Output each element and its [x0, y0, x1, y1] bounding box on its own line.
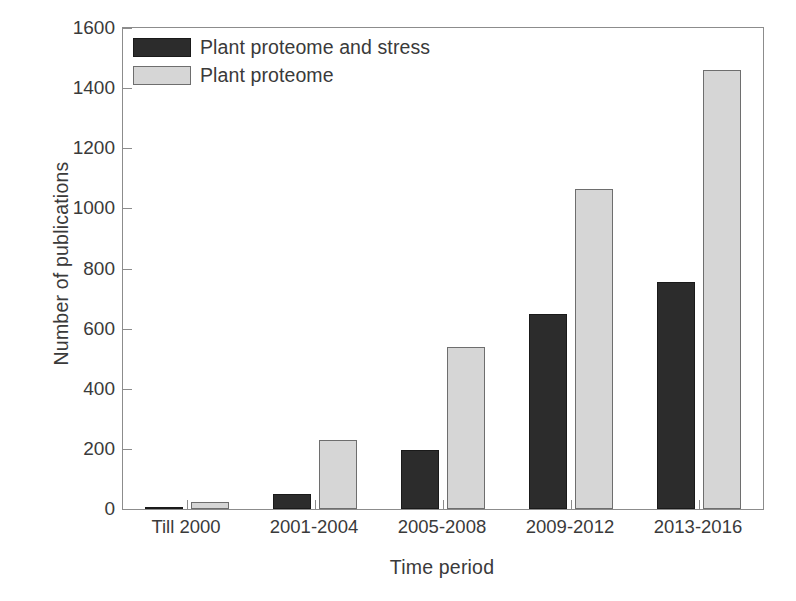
- bar-chart-figure: Number of publications Time period 02004…: [0, 0, 796, 601]
- legend-item-0: Plant proteome and stress: [133, 36, 430, 59]
- y-tick-1400: 1400: [123, 88, 132, 89]
- y-tick-label-1400: 1400: [73, 77, 115, 99]
- x-category-label-2: 2005-2008: [398, 516, 486, 538]
- y-tick-400: 400: [123, 389, 132, 390]
- bar-2-0: [401, 450, 439, 509]
- bar-2-1: [447, 347, 485, 509]
- x-tick-1: [315, 500, 316, 509]
- y-tick-label-1600: 1600: [73, 17, 115, 39]
- y-tick-600: 600: [123, 329, 132, 330]
- y-tick-label-200: 200: [83, 438, 115, 460]
- x-tick-2: [443, 500, 444, 509]
- legend-item-1: Plant proteome: [133, 64, 430, 87]
- legend-swatch-icon-0: [133, 38, 191, 57]
- y-tick-label-800: 800: [83, 258, 115, 280]
- bar-1-0: [273, 494, 311, 509]
- bar-4-0: [657, 282, 695, 509]
- chart-legend: Plant proteome and stress Plant proteome: [133, 36, 430, 87]
- x-tick-4: [699, 500, 700, 509]
- y-tick-800: 800: [123, 269, 132, 270]
- y-tick-1200: 1200: [123, 148, 132, 149]
- x-category-label-3: 2009-2012: [526, 516, 614, 538]
- bar-0-1: [191, 502, 229, 509]
- y-tick-1600: 1600: [123, 28, 132, 29]
- bar-0-0: [145, 507, 183, 509]
- legend-label-0: Plant proteome and stress: [200, 36, 430, 59]
- y-tick-1000: 1000: [123, 208, 132, 209]
- y-tick-0: 0: [123, 509, 132, 510]
- bar-3-0: [529, 314, 567, 509]
- x-category-label-0: Till 2000: [151, 516, 220, 538]
- y-axis-title: Number of publications: [50, 99, 73, 429]
- x-tick-3: [571, 500, 572, 509]
- y-tick-label-600: 600: [83, 318, 115, 340]
- y-tick-label-400: 400: [83, 378, 115, 400]
- y-tick-label-1000: 1000: [73, 197, 115, 219]
- x-axis-title: Time period: [122, 556, 762, 579]
- x-tick-0: [187, 500, 188, 509]
- plot-area: 02004006008001000120014001600 Plant prot…: [122, 27, 764, 510]
- legend-label-1: Plant proteome: [200, 64, 334, 87]
- y-tick-label-0: 0: [104, 498, 115, 520]
- x-category-label-4: 2013-2016: [654, 516, 742, 538]
- bar-4-1: [703, 70, 741, 509]
- x-category-label-1: 2001-2004: [270, 516, 358, 538]
- bar-3-1: [575, 189, 613, 509]
- y-tick-label-1200: 1200: [73, 137, 115, 159]
- y-tick-200: 200: [123, 449, 132, 450]
- bar-1-1: [319, 440, 357, 509]
- legend-swatch-icon-1: [133, 66, 191, 85]
